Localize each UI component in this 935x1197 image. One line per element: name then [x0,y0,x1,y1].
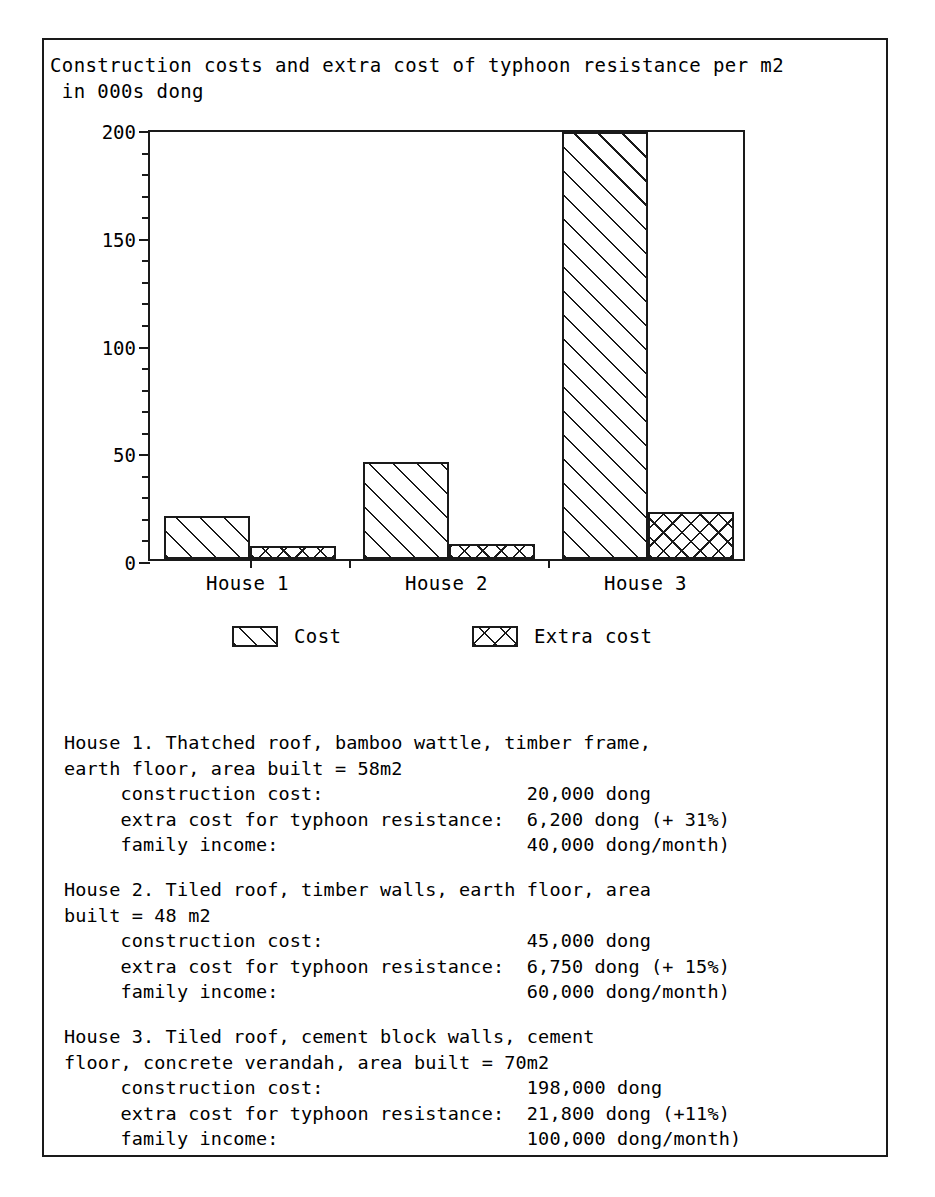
y-axis-minor-tick [142,174,150,176]
house-description-house-1: House 1. Thatched roof, bamboo wattle, t… [64,730,894,858]
x-axis-tick [250,559,252,568]
y-axis-major-tick [139,454,150,456]
y-axis-minor-tick [142,303,150,305]
y-axis-tick-label: 50 [76,446,136,465]
description-line: family income: 40,000 dong/month) [64,832,894,858]
y-axis-minor-tick [142,433,150,435]
y-axis-major-tick [139,562,150,564]
legend-swatch-extra-cost-icon [472,626,518,647]
bar-chart: 050100150200 House 1House 2House 3 [42,110,888,670]
legend-item-extra-cost: Extra cost [472,626,652,647]
y-axis-minor-tick [142,497,150,499]
description-line: construction cost: 20,000 dong [64,781,894,807]
legend-label-cost: Cost [294,627,341,646]
description-line: family income: 100,000 dong/month) [64,1126,894,1152]
y-axis-minor-tick [142,368,150,370]
y-axis-major-tick [139,347,150,349]
legend-item-cost: Cost [232,626,341,647]
x-axis-tick [349,559,351,568]
bar-cost [363,462,449,559]
description-line: family income: 60,000 dong/month) [64,979,894,1005]
x-axis-label: House 2 [347,572,546,594]
description-line: construction cost: 198,000 dong [64,1075,894,1101]
legend-swatch-cost-icon [232,626,278,647]
bar-extra-cost [449,544,535,559]
description-line: House 2. Tiled roof, timber walls, earth… [64,877,894,903]
y-axis-minor-tick [142,196,150,198]
y-axis-tick-label: 200 [76,123,136,142]
description-line: extra cost for typhoon resistance: 21,80… [64,1101,894,1127]
x-axis-label: House 1 [148,572,347,594]
y-axis-minor-tick [142,260,150,262]
y-axis-minor-tick [142,390,150,392]
description-line: House 1. Thatched roof, bamboo wattle, t… [64,730,894,756]
chart-title: Construction costs and extra cost of typ… [50,52,890,104]
description-line: House 3. Tiled roof, cement block walls,… [64,1024,894,1050]
y-axis-minor-tick [142,153,150,155]
y-axis-major-tick [139,239,150,241]
description-line: construction cost: 45,000 dong [64,928,894,954]
y-axis-tick-label: 0 [76,554,136,573]
y-axis-tick-label: 100 [76,338,136,357]
x-axis-tick [548,559,550,568]
y-axis-minor-tick [142,411,150,413]
description-line: extra cost for typhoon resistance: 6,750… [64,954,894,980]
chart-legend: Cost Extra cost [42,620,888,660]
house-description-house-2: House 2. Tiled roof, timber walls, earth… [64,877,894,1005]
bar-extra-cost [250,546,336,559]
y-axis-major-tick [139,131,150,133]
plot-frame: 050100150200 [148,130,745,561]
bar-cost [164,516,250,559]
bar-extra-cost [648,512,734,559]
legend-label-extra-cost: Extra cost [534,627,652,646]
house-descriptions: House 1. Thatched roof, bamboo wattle, t… [64,730,894,1152]
house-description-house-3: House 3. Tiled roof, cement block walls,… [64,1024,894,1152]
y-axis-tick-label: 150 [76,230,136,249]
description-line: extra cost for typhoon resistance: 6,200… [64,807,894,833]
y-axis-minor-tick [142,282,150,284]
y-axis-minor-tick [142,476,150,478]
y-axis-minor-tick [142,325,150,327]
bar-cost [562,132,648,559]
description-line: built = 48 m2 [64,903,894,929]
x-axis-label: House 3 [546,572,745,594]
y-axis-minor-tick [142,519,150,521]
description-line: floor, concrete verandah, area built = 7… [64,1050,894,1076]
description-line: earth floor, area built = 58m2 [64,756,894,782]
y-axis-minor-tick [142,217,150,219]
y-axis-minor-tick [142,540,150,542]
